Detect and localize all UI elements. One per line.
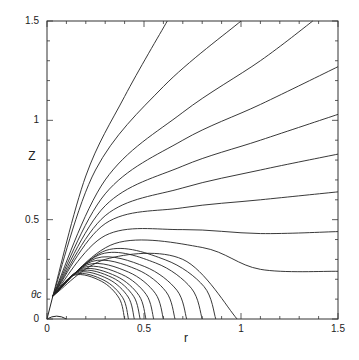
- x-tick-label: 1.5: [331, 323, 345, 334]
- field-line: [53, 21, 241, 296]
- plot-frame: [47, 21, 338, 319]
- field-line: [53, 260, 175, 319]
- y-tick-label: 1: [33, 114, 39, 125]
- theta-c-annotation: θc: [31, 289, 41, 300]
- y-tick-label: 1.5: [25, 15, 39, 26]
- y-axis-label: Z: [28, 149, 35, 163]
- x-tick-label: 0: [44, 323, 50, 334]
- field-line: [53, 248, 216, 319]
- field-line: [53, 253, 237, 319]
- x-tick-label: 1: [238, 323, 244, 334]
- x-tick-label: 0.5: [137, 323, 151, 334]
- axis-tick-labels: 00.511.500.511.5: [25, 15, 345, 334]
- field-line: [53, 263, 164, 319]
- y-tick-label: 0: [33, 313, 39, 324]
- x-axis-label: r: [184, 331, 188, 345]
- y-tick-label: 0.5: [25, 214, 39, 225]
- field-line: [53, 229, 338, 297]
- field-line-chart: 00.511.500.511.5 r Z θc: [0, 0, 359, 360]
- field-lines: [47, 21, 338, 319]
- field-line: [53, 154, 338, 296]
- field-line: [53, 67, 338, 296]
- field-line: [53, 252, 202, 319]
- field-line: [53, 21, 313, 296]
- field-line: [53, 257, 187, 319]
- cone-line: [47, 296, 53, 319]
- axis-ticks: [47, 21, 338, 319]
